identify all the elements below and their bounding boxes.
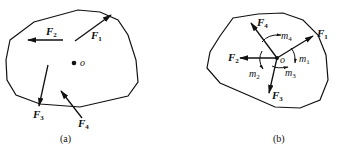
force-f4-arrow [61,91,82,118]
panel-b: o F1 F2 F3 F4 m4 m1 m2 m3 (b) [207,13,328,145]
moment-m3-label: m3 [285,67,296,80]
force-f2-label: F2 [45,25,57,39]
moment-m2-arc [260,51,263,69]
caption-b: (b) [273,133,285,145]
force-f4-label: F4 [77,117,89,131]
force-f3-label: F3 [271,89,283,103]
caption-a: (a) [60,133,71,145]
moment-m1-label: m1 [299,53,310,66]
force-f1-label: F1 [316,27,328,41]
force-f3-arrow [39,65,48,106]
panel-a: F1 F2 o F3 F4 (a) [6,10,138,145]
force-f3-label: F3 [32,108,44,122]
point-o-dot [72,61,77,66]
force-f2-label: F2 [227,51,239,65]
force-f3-arrow [269,58,277,93]
moment-m1-arc [291,48,295,63]
force-f1-label: F1 [90,29,102,43]
moment-m4-label: m4 [281,30,292,43]
point-o-label: o [80,57,85,68]
rigid-body-outline [6,10,138,107]
force-f4-label: F4 [256,16,268,30]
moment-m2-label: m2 [249,68,260,81]
